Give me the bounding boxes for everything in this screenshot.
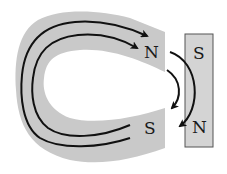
horseshoe-pole-n-label: N — [144, 42, 159, 62]
bar-magnet-s-label: S — [193, 43, 205, 63]
horseshoe-pole-s-label: S — [144, 118, 156, 138]
diagram-canvas: N S S N — [0, 0, 227, 174]
bar-magnet-n-label: N — [192, 117, 207, 137]
magnet-diagram: N S S N — [0, 0, 227, 174]
field-line-gap — [167, 70, 179, 108]
